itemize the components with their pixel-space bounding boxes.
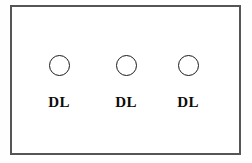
node-label-3: DL bbox=[158, 94, 218, 110]
node-group-2[interactable]: DL bbox=[96, 55, 156, 110]
panel-border: DL DL DL bbox=[10, 5, 241, 155]
diagram-canvas: DL DL DL bbox=[0, 0, 252, 163]
circle-icon[interactable] bbox=[49, 55, 70, 76]
node-label-1: DL bbox=[29, 94, 89, 110]
circle-icon[interactable] bbox=[178, 55, 199, 76]
node-group-3[interactable]: DL bbox=[158, 55, 218, 110]
circle-icon[interactable] bbox=[116, 55, 137, 76]
node-label-2: DL bbox=[96, 94, 156, 110]
node-row: DL DL DL bbox=[12, 7, 239, 153]
node-group-1[interactable]: DL bbox=[29, 55, 89, 110]
